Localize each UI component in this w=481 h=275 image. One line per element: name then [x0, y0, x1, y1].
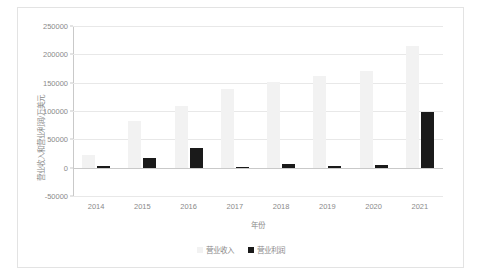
legend-item[interactable]: 营业收入	[197, 244, 234, 255]
x-tick-label: 2016	[166, 202, 212, 211]
y-tick-label: 50000	[47, 135, 68, 144]
plot-area: -50000050000100000150000200000250000 201…	[73, 26, 443, 196]
bar-group: 2016	[166, 26, 212, 196]
bar-profit	[236, 167, 249, 168]
bar-income	[175, 106, 188, 168]
x-tick-label: 2019	[304, 202, 350, 211]
bar-group: 2019	[304, 26, 350, 196]
bar-income	[313, 76, 326, 168]
bar-group: 2018	[258, 26, 304, 196]
bar-profit	[375, 165, 388, 167]
gridline	[73, 196, 443, 197]
x-tick-label: 2014	[73, 202, 119, 211]
legend-swatch-icon	[197, 247, 203, 253]
y-tick-label: 100000	[43, 107, 68, 116]
legend-label: 营业利润	[257, 244, 285, 255]
legend-swatch-icon	[248, 247, 254, 253]
x-tick-label: 2015	[119, 202, 165, 211]
bar-income	[267, 82, 280, 168]
bar-group: 2020	[351, 26, 397, 196]
bar-profit	[190, 148, 203, 168]
y-tick-label: 150000	[43, 78, 68, 87]
bar-income	[82, 155, 95, 167]
bar-profit	[328, 166, 341, 168]
bar-income	[406, 46, 419, 168]
bar-income	[221, 89, 234, 168]
bar-income	[360, 71, 373, 168]
bar-group: 2017	[212, 26, 258, 196]
chart-legend: 营业收入营业利润	[18, 244, 463, 255]
bar-profit	[143, 158, 156, 167]
legend-label: 营业收入	[206, 244, 234, 255]
x-tick-label: 2017	[212, 202, 258, 211]
chart-container: 营业收入和营业利润/万美元 -5000005000010000015000020…	[17, 7, 464, 268]
x-tick-label: 2021	[397, 202, 443, 211]
y-tick-label: 250000	[43, 22, 68, 31]
bar-group: 2014	[73, 26, 119, 196]
bar-group: 2021	[397, 26, 443, 196]
y-tick-label: 0	[64, 163, 68, 172]
x-axis-label: 年份	[73, 219, 443, 230]
bar-group: 2015	[119, 26, 165, 196]
legend-item[interactable]: 营业利润	[248, 244, 285, 255]
x-tick-label: 2018	[258, 202, 304, 211]
y-tick-label: 200000	[43, 50, 68, 59]
bar-profit	[282, 164, 295, 168]
bar-profit	[421, 112, 434, 167]
bar-income	[128, 121, 141, 167]
x-tick-label: 2020	[351, 202, 397, 211]
bar-profit	[97, 166, 110, 167]
y-tick-label: -50000	[45, 192, 68, 201]
